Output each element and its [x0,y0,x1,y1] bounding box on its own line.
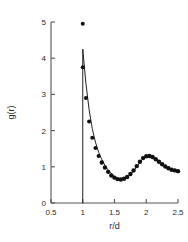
data-point [176,169,180,173]
data-point [84,96,88,100]
data-layer [81,22,180,203]
x-axis-title: r/d [109,221,120,231]
data-point [81,22,85,26]
y-axis-tick-label: 0 [42,199,47,208]
y-axis-tick-label: 3 [42,90,47,99]
data-point [81,65,85,69]
data-point [90,136,94,140]
x-axis-tick-label: 1 [81,208,86,217]
data-point [135,164,139,168]
radial-distribution-chart: 0123450.511.522.5r/dg(r) [0,0,188,242]
data-point [128,172,132,176]
data-point [93,146,97,150]
data-point [138,160,142,164]
x-axis-tick-label: 0.5 [45,208,57,217]
y-axis-tick-label: 1 [42,163,47,172]
data-point [106,170,110,174]
data-point [103,165,107,169]
y-axis-title: g(r) [6,106,16,120]
y-axis-tick-label: 5 [42,18,47,27]
figure: 0123450.511.522.5r/dg(r) [0,0,188,242]
y-axis-tick-label: 4 [42,54,47,63]
data-point [131,168,135,172]
data-point [87,120,91,124]
x-axis-tick-label: 1.5 [109,208,121,217]
data-point [97,154,101,158]
x-axis-tick-label: 2 [144,208,149,217]
data-point [100,160,104,164]
y-axis-tick-label: 2 [42,127,47,136]
x-axis-tick-label: 2.5 [172,208,184,217]
theory-curve [83,49,178,203]
axis-labels-layer: 0123450.511.522.5r/dg(r) [6,18,184,231]
